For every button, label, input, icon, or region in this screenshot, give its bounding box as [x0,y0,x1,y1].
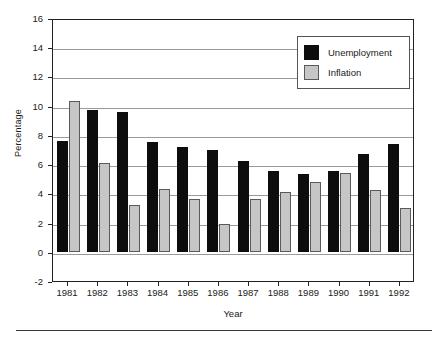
x-tickmark [97,282,98,286]
x-tickmark [339,282,340,286]
y-tick-label: 2 [4,219,48,229]
y-tick-label: 6 [4,160,48,170]
y-tick-label: -2 [4,277,48,287]
y-tick-label: 14 [4,43,48,53]
x-tickmark [399,282,400,286]
x-tickmark [218,282,219,286]
y-tickmark [48,165,52,166]
y-tickmark [48,48,52,49]
y-tickmark [48,194,52,195]
x-tickmark [188,282,189,286]
y-tick-label: 10 [4,102,48,112]
x-tickmark [369,282,370,286]
y-tick-label: 12 [4,72,48,82]
y-tickmark [48,19,52,20]
chart-legend: Unemployment Inflation [297,36,410,89]
legend-item-inflation: Inflation [304,62,403,82]
x-tickmark [278,282,279,286]
x-tickmark [248,282,249,286]
footer-divider [16,330,432,331]
x-tickmark [308,282,309,286]
y-tick-label: 16 [4,14,48,24]
legend-label-inflation: Inflation [328,67,361,78]
legend-swatch-inflation-icon [304,65,319,80]
x-axis-title: Year [52,308,414,319]
legend-item-unemployment: Unemployment [304,42,403,62]
y-tick-label: 4 [4,189,48,199]
x-tickmark [158,282,159,286]
unemployment-inflation-bar-chart: Percentage 1614121086420-2 1981198219831… [0,0,448,339]
legend-label-unemployment: Unemployment [328,47,392,58]
y-tick-label: 8 [4,131,48,141]
y-tickmark [48,77,52,78]
y-tick-label: 0 [4,248,48,258]
x-tickmark [67,282,68,286]
y-tickmark [48,136,52,137]
y-tickmark [48,224,52,225]
y-tickmark [48,253,52,254]
legend-swatch-unemployment-icon [304,45,319,60]
x-tickmark [127,282,128,286]
x-tick-label-1992: 1992 [379,288,419,298]
y-tickmark [48,107,52,108]
